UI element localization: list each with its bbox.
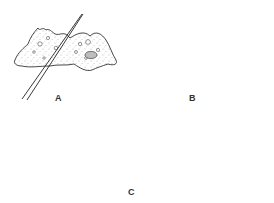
panel-label-b: B (189, 94, 196, 103)
panel-a (14, 14, 116, 100)
panel-label-a: A (55, 94, 62, 103)
diagram-canvas (0, 0, 274, 203)
panel-label-c: C (128, 188, 135, 197)
nucleus (85, 51, 97, 58)
amoeba-microsurgery-diagram: A B C (0, 0, 274, 203)
amoeba-whole (14, 28, 116, 71)
